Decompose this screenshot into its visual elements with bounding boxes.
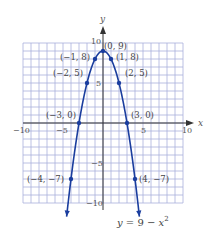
equation-label: y = 9 − x2 bbox=[116, 215, 169, 228]
data-point bbox=[77, 121, 81, 125]
data-point bbox=[109, 57, 113, 61]
y-axis-arrow-icon bbox=[100, 26, 106, 34]
y-tick-label: −5 bbox=[91, 159, 103, 168]
point-label: (3, 0) bbox=[131, 110, 154, 120]
x-axis-label: x bbox=[198, 118, 203, 128]
equation-exponent: 2 bbox=[164, 215, 168, 223]
data-point bbox=[133, 177, 137, 181]
y-tick-label: 10 bbox=[91, 37, 101, 46]
x-tick-label: 10 bbox=[182, 126, 192, 135]
point-label: (2, 5) bbox=[125, 68, 148, 78]
point-label: (−1, 8) bbox=[60, 52, 90, 62]
x-tick-label: −5 bbox=[56, 126, 68, 135]
point-label: (−2, 5) bbox=[53, 68, 83, 78]
y-tick-label: −10 bbox=[86, 199, 103, 208]
equation-mid: = 9 − bbox=[123, 217, 159, 228]
parabola-chart: x y −10 −5 5 10 10 5 −5 −10 (0, 9) (−1, … bbox=[0, 0, 220, 233]
data-point bbox=[85, 81, 89, 85]
data-point bbox=[125, 121, 129, 125]
data-point bbox=[117, 81, 121, 85]
x-tick-label: −10 bbox=[13, 126, 30, 135]
y-axis-label: y bbox=[99, 14, 106, 24]
data-point bbox=[69, 177, 73, 181]
point-label: (1, 8) bbox=[116, 52, 139, 62]
x-tick-label: 5 bbox=[141, 126, 146, 135]
point-label: (−4, −7) bbox=[27, 174, 64, 184]
point-label: (−3, 0) bbox=[46, 110, 76, 120]
data-point bbox=[93, 57, 97, 61]
y-tick-label: 5 bbox=[96, 79, 101, 88]
point-label: (4, −7) bbox=[139, 174, 169, 184]
point-label: (0, 9) bbox=[104, 41, 127, 51]
